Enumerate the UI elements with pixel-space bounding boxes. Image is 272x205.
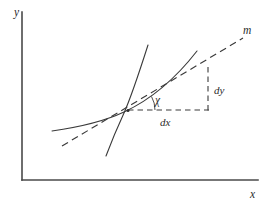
- x-axis-label: x: [249, 188, 256, 200]
- dy-label: dy: [214, 84, 225, 96]
- y-axis-label: y: [13, 6, 20, 19]
- tangency-point: [127, 109, 130, 112]
- steep-curve: [106, 45, 148, 156]
- dx-label: dx: [160, 116, 171, 128]
- tangent-line-label: m: [243, 24, 251, 36]
- tangent-slope-diagram: y x m χ dy dx: [0, 0, 272, 205]
- angle-label: χ: [154, 94, 161, 107]
- concave-curve: [52, 51, 197, 131]
